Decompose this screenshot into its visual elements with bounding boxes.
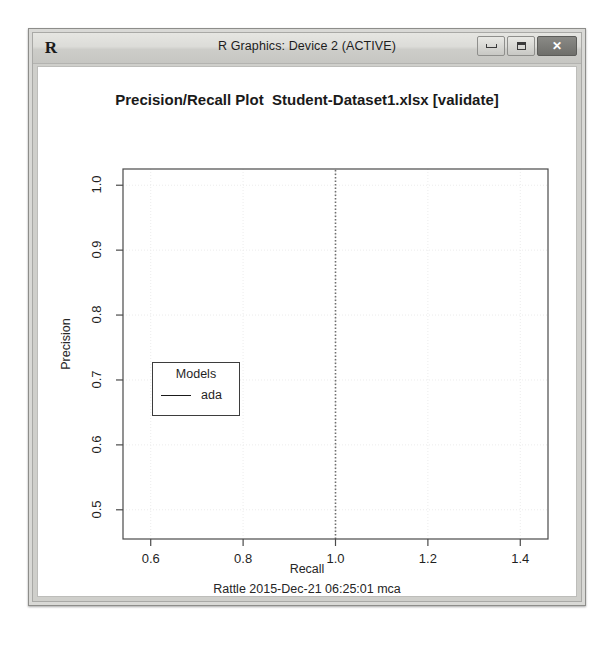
y-tick-label: 1.0 — [89, 168, 104, 202]
x-tick-label: 1.2 — [408, 551, 448, 566]
x-tick-label: 1.4 — [500, 551, 540, 566]
graphics-canvas: Precision/Recall Plot Student-Dataset1.x… — [37, 66, 577, 597]
maximize-icon — [517, 42, 526, 50]
title-bar[interactable]: R R Graphics: Device 2 (ACTIVE) ✕ — [33, 33, 581, 64]
legend-line-swatch — [161, 395, 191, 396]
plot-frame — [123, 169, 548, 539]
x-tick-label: 1.0 — [316, 551, 356, 566]
y-tick-label: 0.9 — [89, 233, 104, 267]
y-tick-label: 0.8 — [89, 298, 104, 332]
y-tick-label: 0.6 — [89, 427, 104, 461]
x-tick-label: 0.6 — [131, 551, 171, 566]
minimize-icon — [486, 44, 497, 48]
legend-entries: ada — [153, 388, 239, 402]
close-button[interactable]: ✕ — [537, 36, 577, 56]
minimize-button[interactable] — [477, 36, 505, 56]
legend-entry: ada — [153, 388, 239, 402]
gridlines — [123, 169, 548, 539]
legend-title: Models — [153, 367, 239, 381]
plot-area — [38, 67, 577, 597]
window-inner-frame: R R Graphics: Device 2 (ACTIVE) ✕ Precis… — [32, 32, 582, 602]
maximize-button[interactable] — [507, 36, 535, 56]
legend-entry-label: ada — [201, 388, 222, 402]
legend: Models ada — [152, 362, 240, 416]
y-tick-label: 0.5 — [89, 492, 104, 526]
r-graphics-window: R R Graphics: Device 2 (ACTIVE) ✕ Precis… — [28, 28, 586, 606]
y-tick-label: 0.7 — [89, 362, 104, 396]
window-controls: ✕ — [477, 36, 577, 56]
x-tick-label: 0.8 — [223, 551, 263, 566]
